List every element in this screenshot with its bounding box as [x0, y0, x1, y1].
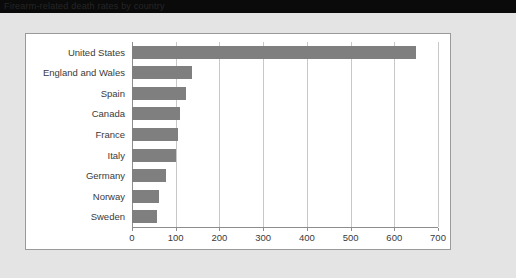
bar — [132, 210, 157, 223]
bar — [132, 149, 176, 162]
plot-area — [132, 42, 438, 227]
bar — [132, 66, 192, 79]
category-label: Sweden — [26, 211, 130, 222]
category-label: Italy — [26, 150, 130, 161]
chart-plot-wrapper: United StatesEngland and WalesSpainCanad… — [26, 34, 450, 249]
tick-mark — [394, 228, 395, 231]
tick-mark — [219, 228, 220, 231]
bar-row — [132, 210, 438, 223]
tick-label: 600 — [386, 232, 402, 243]
bar-series — [132, 42, 438, 227]
category-label: United States — [26, 47, 130, 58]
tick-mark — [307, 228, 308, 231]
category-label: Norway — [26, 191, 130, 202]
x-axis-ticks: 0100200300400500600700 — [132, 228, 438, 244]
category-axis-labels: United StatesEngland and WalesSpainCanad… — [26, 42, 130, 227]
document-page: United StatesEngland and WalesSpainCanad… — [0, 13, 516, 278]
bar-row — [132, 107, 438, 120]
bar-row — [132, 128, 438, 141]
bar-chart-panel: United StatesEngland and WalesSpainCanad… — [25, 33, 451, 250]
bar — [132, 46, 416, 59]
bar-row — [132, 46, 438, 59]
bar — [132, 87, 186, 100]
tick-label: 500 — [343, 232, 359, 243]
bar — [132, 190, 159, 203]
window-title-bar: Firearm-related death rates by country — [0, 0, 516, 13]
tick-label: 400 — [299, 232, 315, 243]
bar-row — [132, 66, 438, 79]
tick-label: 200 — [211, 232, 227, 243]
bar-row — [132, 149, 438, 162]
tick-label: 100 — [168, 232, 184, 243]
bar-row — [132, 87, 438, 100]
bar-row — [132, 169, 438, 182]
category-label: England and Wales — [26, 67, 130, 78]
tick-mark — [176, 228, 177, 231]
window-title: Firearm-related death rates by country — [4, 1, 165, 12]
category-label: Spain — [26, 88, 130, 99]
tick-mark — [438, 228, 439, 231]
category-label: Germany — [26, 170, 130, 181]
tick-label: 300 — [255, 232, 271, 243]
bar — [132, 107, 180, 120]
tick-mark — [351, 228, 352, 231]
gridline — [438, 42, 439, 227]
tick-label: 700 — [430, 232, 446, 243]
tick-label: 0 — [129, 232, 134, 243]
tick-mark — [263, 228, 264, 231]
tick-mark — [132, 228, 133, 231]
bar — [132, 128, 178, 141]
category-label: Canada — [26, 108, 130, 119]
bar-row — [132, 190, 438, 203]
category-label: France — [26, 129, 130, 140]
bar — [132, 169, 166, 182]
